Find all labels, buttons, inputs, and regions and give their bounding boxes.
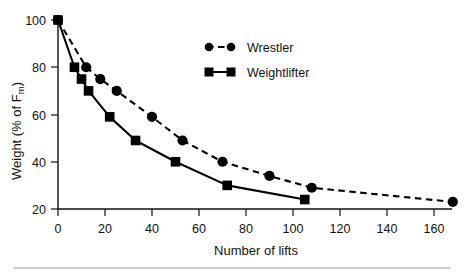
data-point: [222, 181, 232, 191]
data-point: [84, 86, 94, 96]
y-tick-label-60: 60: [32, 109, 46, 123]
y-axis-title-subscript: m: [15, 86, 26, 94]
chart-plot: Weight (% of Fm) 100 80 60 40 20: [0, 0, 464, 276]
figure-container: Weight (% of Fm) 100 80 60 40 20: [0, 0, 464, 276]
x-tick-label-0: 0: [55, 222, 62, 236]
y-axis-ticks: [51, 20, 58, 209]
data-point: [217, 157, 227, 167]
legend-marker-circle-end-icon: [227, 43, 236, 52]
data-point: [95, 74, 105, 84]
x-tick-label-140: 140: [377, 222, 398, 236]
y-tick-label-100: 100: [25, 14, 46, 28]
data-point: [112, 86, 122, 96]
data-point: [300, 195, 310, 205]
data-point: [448, 197, 458, 207]
data-point: [171, 157, 181, 167]
data-point: [70, 62, 80, 72]
x-tick-label-40: 40: [145, 222, 159, 236]
data-point: [53, 15, 63, 25]
legend-label-weightlifter: Weightlifter: [247, 66, 309, 80]
x-tick-label-160: 160: [424, 222, 445, 236]
x-tick-label-20: 20: [98, 222, 112, 236]
x-tick-label-80: 80: [239, 222, 253, 236]
data-point: [105, 112, 115, 122]
y-axis-title-main: Weight (% of F: [9, 94, 24, 180]
data-point: [177, 135, 187, 145]
y-tick-label-20: 20: [32, 203, 46, 217]
x-tick-label-120: 120: [330, 222, 351, 236]
y-axis-title-tail: ): [9, 82, 24, 86]
y-tick-label-80: 80: [32, 61, 46, 75]
data-point: [131, 136, 141, 146]
data-point: [264, 171, 274, 181]
y-tick-label-40: 40: [32, 156, 46, 170]
y-axis-tick-labels: 100 80 60 40 20: [25, 14, 46, 217]
legend-marker-square-icon: [205, 68, 214, 77]
data-point: [147, 112, 157, 122]
legend-marker-circle-icon: [205, 43, 214, 52]
x-axis-title: Number of lifts: [214, 243, 298, 258]
legend-marker-square-end-icon: [227, 68, 236, 77]
chart-legend: Wrestler Weightlifter: [205, 41, 310, 80]
data-point: [81, 62, 91, 72]
x-axis-tick-labels: 0 20 40 60 80 100 120 140 160: [55, 222, 445, 236]
x-tick-label-60: 60: [192, 222, 206, 236]
legend-entry-wrestler[interactable]: Wrestler: [205, 41, 294, 55]
svg-text:Weight (% of Fm): Weight (% of Fm): [9, 82, 26, 180]
x-tick-label-100: 100: [283, 222, 304, 236]
data-point: [77, 74, 87, 84]
x-axis-ticks: [58, 209, 434, 216]
legend-label-wrestler: Wrestler: [247, 41, 293, 55]
y-axis-title: Weight (% of Fm): [9, 82, 26, 180]
data-point: [307, 183, 317, 193]
legend-entry-weightlifter[interactable]: Weightlifter: [205, 66, 310, 80]
